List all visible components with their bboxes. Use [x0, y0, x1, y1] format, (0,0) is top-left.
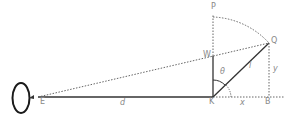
angle-base-arc	[226, 85, 231, 97]
label-E: E	[40, 97, 45, 106]
label-x: x	[239, 98, 245, 107]
label-theta: θ	[220, 67, 225, 76]
label-W: W	[203, 50, 211, 59]
label-P: P	[211, 2, 216, 11]
label-K: K	[209, 97, 215, 106]
label-Q: Q	[271, 36, 277, 45]
label-d: d	[120, 98, 126, 107]
geometry-diagram: E K W P Q B d x y l θ	[0, 0, 291, 127]
sightline-EQ	[38, 43, 269, 97]
eye-icon	[13, 83, 30, 113]
angle-theta-arc	[213, 80, 225, 85]
label-B: B	[265, 97, 271, 106]
label-l: l	[249, 61, 252, 70]
arc-PQ	[213, 17, 269, 43]
label-y: y	[272, 64, 278, 73]
